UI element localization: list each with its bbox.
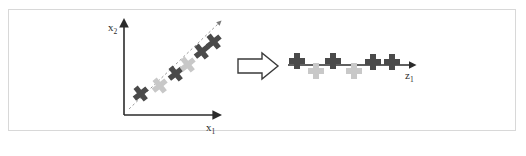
projected-marker-dark-1 bbox=[289, 53, 305, 69]
scatter-marker-light-2 bbox=[180, 57, 196, 73]
z-axis-label-subscript: 1 bbox=[410, 75, 414, 84]
projection-arrow-icon bbox=[238, 53, 278, 79]
diagram-canvas: x2 x1 bbox=[0, 0, 526, 156]
z-axis-label: z1 bbox=[405, 69, 414, 84]
one-dimensional-projection-panel: z1 bbox=[288, 53, 414, 84]
x-axis-label: x1 bbox=[206, 121, 216, 136]
x-axis-label-subscript: 1 bbox=[212, 127, 216, 136]
figure-container: x2 x1 bbox=[0, 0, 526, 156]
y-axis-label: x2 bbox=[108, 21, 118, 36]
y-axis-label-subscript: 2 bbox=[114, 27, 118, 36]
scatter-marker-dark-4 bbox=[206, 34, 222, 50]
projected-marker-dark-2 bbox=[325, 53, 341, 69]
scatter-marker-dark-1 bbox=[133, 86, 149, 102]
projected-marker-dark-4 bbox=[384, 54, 400, 70]
projected-marker-dark-3 bbox=[365, 54, 381, 70]
two-dimensional-scatter-panel: x2 x1 bbox=[108, 21, 222, 136]
